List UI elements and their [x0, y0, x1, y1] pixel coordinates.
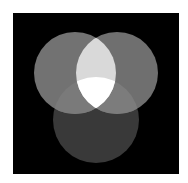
venn-diagram — [0, 0, 188, 183]
venn-svg — [0, 0, 188, 183]
